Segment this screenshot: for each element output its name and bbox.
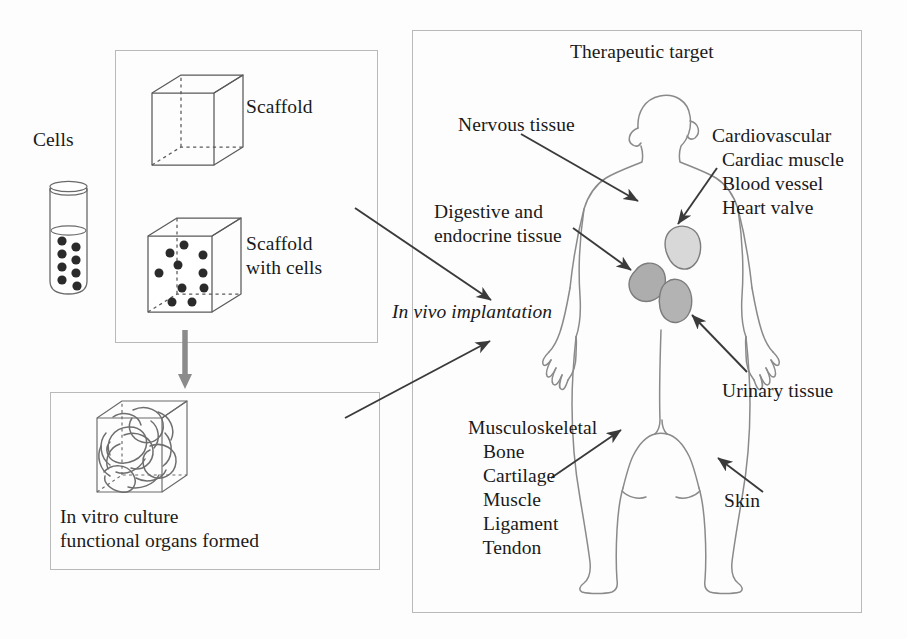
label-scaffold-with-cells: Scaffold with cells <box>246 232 322 280</box>
label-urinary-tissue: Urinary tissue <box>722 379 833 403</box>
label-musculoskeletal: Musculoskeletal Bone Cartilage Muscle Li… <box>468 416 597 560</box>
label-nervous-tissue: Nervous tissue <box>458 113 575 137</box>
label-scaffold: Scaffold <box>246 95 313 119</box>
label-cells: Cells <box>33 128 74 152</box>
label-therapeutic-target: Therapeutic target <box>570 40 714 64</box>
panel-scaffold <box>115 50 378 343</box>
label-skin: Skin <box>724 489 760 513</box>
label-in-vivo-implantation: In vivo implantation <box>392 300 552 324</box>
test-tube-icon <box>50 181 87 294</box>
label-cardiovascular: Cardiovascular Cardiac muscle Blood vess… <box>712 124 844 220</box>
figure-canvas: Cells Scaffold Scaffold with cells In vi… <box>0 0 907 639</box>
label-in-vitro-culture: In vitro culture functional organs forme… <box>60 505 259 553</box>
cell-dots <box>57 236 81 290</box>
label-digestive-endocrine-tissue: Digestive and endocrine tissue <box>434 200 562 248</box>
